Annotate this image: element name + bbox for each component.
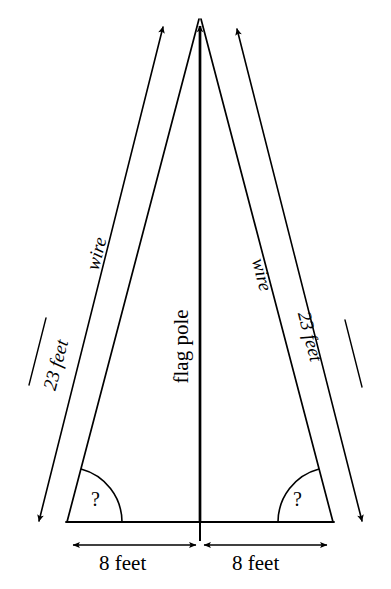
base-length-label-right: 8 feet: [232, 553, 279, 574]
measure-arrow-left: [39, 27, 163, 521]
angle-label-left: ?: [91, 489, 100, 509]
base-length-label-left: 8 feet: [99, 553, 146, 574]
leader-line-right: [345, 320, 362, 387]
angle-arc-left: [81, 469, 122, 522]
angle-label-right: ?: [293, 489, 302, 509]
wire-line-left: [67, 19, 199, 522]
flag-pole-label: flag pole: [171, 309, 192, 383]
diagram-canvas: [0, 0, 391, 589]
geometry-diagram: wire wire flag pole 23 feet 23 feet ? ? …: [0, 0, 391, 589]
